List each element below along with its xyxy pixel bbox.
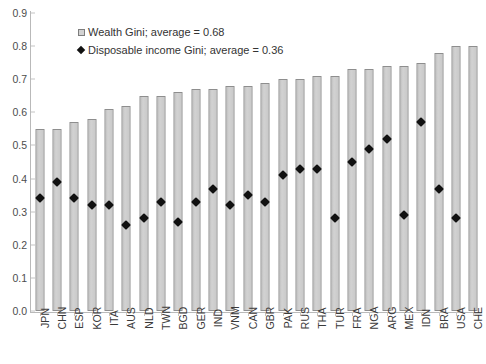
bar-group (291, 13, 308, 311)
x-axis-tick-label: CHE (473, 307, 484, 329)
bar-group (48, 13, 65, 311)
x-axis-label-slot: USA (447, 316, 464, 362)
y-axis-tick-label: 0.6 (12, 107, 27, 118)
bar-wealth-gini (451, 46, 460, 311)
x-axis-label-slot: IDN (413, 316, 430, 362)
y-axis-tick-label: 0.2 (12, 240, 27, 251)
bar-group (430, 13, 447, 311)
bar-wealth-gini (313, 76, 322, 311)
x-axis-label-slot: VNM (222, 316, 239, 362)
x-axis-label-slot: AUS (118, 316, 135, 362)
bar-wealth-gini (278, 79, 287, 311)
bar-wealth-gini (399, 66, 408, 311)
bar-group (326, 13, 343, 311)
bar-wealth-gini (174, 92, 183, 311)
square-marker-icon (74, 29, 88, 36)
x-axis-label-slot: TUR (326, 316, 343, 362)
gini-bar-chart: 0.00.10.20.30.40.50.60.70.80.9 JPNCHNESP… (0, 0, 486, 364)
x-axis-labels: JPNCHNESPKORITAAUSNLDTWNBGDGERINDVNMCANG… (31, 316, 482, 362)
bar-group (395, 13, 412, 311)
bar-wealth-gini (105, 109, 114, 311)
y-axis-tick-label: 0.9 (12, 8, 27, 19)
legend-label-wealth-gini: Wealth Gini; average = 0.68 (88, 27, 224, 38)
bar-wealth-gini (139, 96, 148, 311)
bar-group (378, 13, 395, 311)
bar-wealth-gini (365, 69, 374, 311)
x-axis-label-slot: GBR (257, 316, 274, 362)
bar-group (361, 13, 378, 311)
x-axis-label-slot: NLD (135, 316, 152, 362)
bar-group (309, 13, 326, 311)
diamond-marker-icon (74, 47, 88, 53)
x-axis-label-slot: ESP (66, 316, 83, 362)
x-axis-label-slot: CHE (465, 316, 482, 362)
y-axis-tick-label: 0.8 (12, 41, 27, 52)
bar-wealth-gini (295, 79, 304, 311)
legend-label-disposable-income-gini: Disposable income Gini; average = 0.36 (88, 45, 283, 56)
bar-wealth-gini (53, 129, 62, 311)
bar-group (465, 13, 482, 311)
bar-wealth-gini (417, 63, 426, 311)
bar-wealth-gini (469, 46, 478, 311)
bar-group (447, 13, 464, 311)
x-axis-label-slot: IND (204, 316, 221, 362)
y-axis-tick-label: 0.7 (12, 74, 27, 85)
x-axis-label-slot: JPN (31, 316, 48, 362)
x-axis-label-slot: NGA (361, 316, 378, 362)
legend-item-disposable-income-gini: Disposable income Gini; average = 0.36 (74, 42, 283, 58)
x-axis-label-slot: PAK (274, 316, 291, 362)
bar-wealth-gini (434, 53, 443, 311)
x-axis-label-slot: THA (309, 316, 326, 362)
x-axis-label-slot: ITA (100, 316, 117, 362)
x-axis-label-slot: BGD (170, 316, 187, 362)
bar-group (31, 13, 48, 311)
y-axis-tick-label: 0.4 (12, 173, 27, 184)
x-axis-label-slot: CHN (48, 316, 65, 362)
x-axis-label-slot: ARG (378, 316, 395, 362)
bar-wealth-gini (209, 89, 218, 311)
x-axis-label-slot: KOR (83, 316, 100, 362)
x-axis-label-slot: RUS (291, 316, 308, 362)
bar-wealth-gini (330, 76, 339, 311)
legend-item-wealth-gini: Wealth Gini; average = 0.68 (74, 24, 283, 40)
bar-wealth-gini (122, 106, 131, 311)
bar-group (413, 13, 430, 311)
x-axis-label-slot: GER (187, 316, 204, 362)
bar-wealth-gini (35, 129, 44, 311)
bar-wealth-gini (226, 86, 235, 311)
y-axis-tick-label: 0.5 (12, 140, 27, 151)
bar-wealth-gini (347, 69, 356, 311)
bar-group (343, 13, 360, 311)
x-axis-label-slot: MEX (395, 316, 412, 362)
x-axis-label-slot: FRA (343, 316, 360, 362)
y-axis-tick-label: 0.0 (12, 306, 27, 317)
x-axis-label-slot: BRA (430, 316, 447, 362)
y-axis-tick-label: 0.1 (12, 273, 27, 284)
x-axis-label-slot: CAN (239, 316, 256, 362)
y-axis-tick-label: 0.3 (12, 206, 27, 217)
legend: Wealth Gini; average = 0.68 Disposable i… (74, 24, 283, 60)
bar-wealth-gini (70, 122, 79, 311)
bar-wealth-gini (87, 119, 96, 311)
x-axis-label-slot: TWN (152, 316, 169, 362)
bar-wealth-gini (382, 66, 391, 311)
